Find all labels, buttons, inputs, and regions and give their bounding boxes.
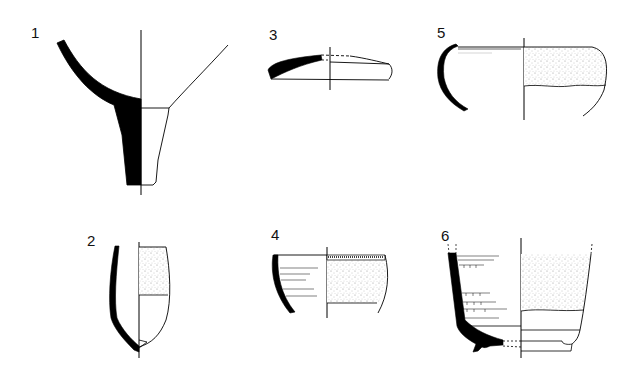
vessel-3 xyxy=(268,47,392,90)
vessel-2 xyxy=(110,242,170,358)
drawings xyxy=(0,0,636,381)
vessel-6 xyxy=(448,238,592,358)
vessel-4 xyxy=(272,247,387,318)
vessel-1 xyxy=(57,30,228,195)
pottery-plate: 1 2 3 4 5 6 xyxy=(0,0,636,381)
vessel-5 xyxy=(438,38,608,120)
